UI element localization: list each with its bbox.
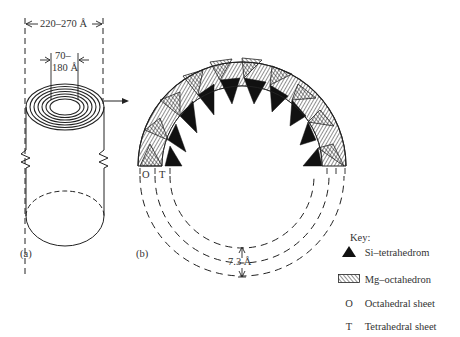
key-item-si-tetrahedron: Si–tetrahedrom	[336, 246, 429, 259]
key-item-tetrahedral-sheet: T Tetrahedral sheet	[336, 320, 436, 332]
key-item-octahedral-sheet: O Octahedral sheet	[336, 297, 435, 309]
key-item-mg-octahedron: Mg–octahedron	[336, 273, 431, 285]
inner-diameter-label-line1: 70–	[55, 51, 71, 62]
key-item-label: Si–tetrahedrom	[365, 247, 430, 258]
tetrahedral-marker: T	[159, 170, 165, 181]
key-item-label: Tetrahedral sheet	[365, 321, 437, 332]
outer-diameter-label: 220–270 Å	[40, 19, 87, 30]
octahedral-symbol: O	[336, 298, 362, 309]
filled-triangle-icon	[336, 246, 362, 259]
tetrahedral-symbol: T	[336, 321, 362, 332]
curled-layer-figure	[138, 58, 346, 277]
hatched-rectangle-icon	[336, 274, 362, 285]
key-item-label: Mg–octahedron	[365, 274, 431, 285]
cylinder-figure	[21, 18, 129, 275]
key-title: Key:	[350, 232, 370, 243]
inner-diameter-label-line2: 180 Å	[52, 63, 78, 74]
panel-a-label: (a)	[20, 249, 32, 260]
panel-b-label: (b)	[136, 249, 148, 260]
layer-spacing-label: 7.3 Å	[228, 257, 251, 268]
key-item-label: Octahedral sheet	[365, 298, 435, 309]
octahedral-marker: O	[142, 170, 150, 181]
